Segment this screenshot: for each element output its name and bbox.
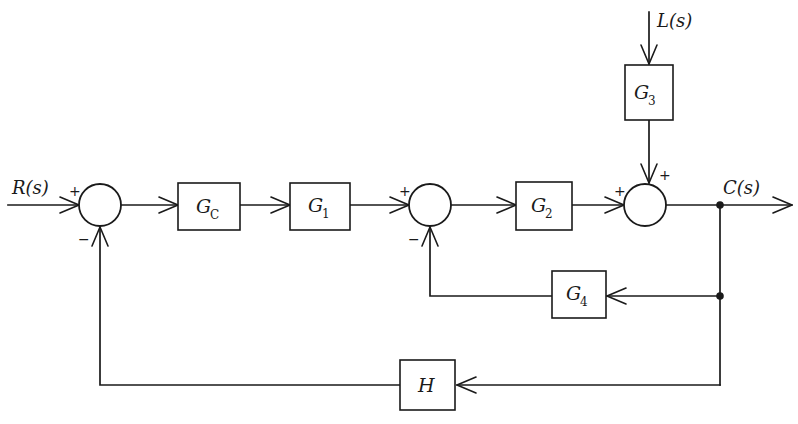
block-gc[interactable]: G C	[178, 183, 240, 230]
sum2-circle	[409, 184, 451, 226]
block-diagram-svg: + − + − + + G C G 1 G 2	[0, 0, 798, 424]
wire-g4-to-sum2	[430, 227, 552, 296]
block-h[interactable]: H	[400, 360, 455, 410]
label-output: C(s)	[723, 177, 760, 198]
block-g2[interactable]: G 2	[516, 182, 572, 230]
label-reference-input: R(s)	[11, 177, 49, 198]
block-gc-subscript: C	[210, 208, 219, 222]
block-g4-subscript: 4	[580, 295, 588, 309]
sum3-plus-sign-forward: +	[614, 183, 626, 199]
sum2-minus-sign: −	[408, 231, 420, 247]
sum3-plus-sign-disturbance: +	[659, 167, 671, 183]
sum2-plus-sign: +	[399, 183, 411, 199]
block-g1-subscript: 1	[322, 207, 330, 221]
wire-h-to-sum1	[100, 227, 400, 385]
block-g3-subscript: 3	[648, 94, 656, 108]
block-h-label: H	[417, 374, 435, 396]
sum3-circle	[624, 184, 666, 226]
sum1-plus-sign: +	[69, 183, 81, 199]
sum1-circle	[79, 184, 121, 226]
block-g1-label: G	[308, 194, 323, 216]
block-g4-label: G	[566, 282, 581, 304]
forward-path-wires	[8, 197, 792, 213]
label-disturbance-input: L(s)	[656, 10, 692, 31]
block-gc-label: G	[196, 195, 211, 217]
block-g4[interactable]: G 4	[552, 271, 606, 318]
block-g3[interactable]: G 3	[625, 65, 673, 120]
block-g1[interactable]: G 1	[290, 183, 350, 230]
block-g2-label: G	[531, 194, 546, 216]
summing-junction-3: + +	[614, 167, 671, 226]
block-g2-subscript: 2	[545, 207, 553, 221]
block-diagram-canvas: + − + − + + G C G 1 G 2	[0, 0, 798, 424]
branch-dot-inner-feedback	[716, 292, 724, 300]
block-g3-label: G	[634, 81, 649, 103]
sum1-minus-sign: −	[78, 231, 90, 247]
branch-dot-output	[716, 201, 724, 209]
